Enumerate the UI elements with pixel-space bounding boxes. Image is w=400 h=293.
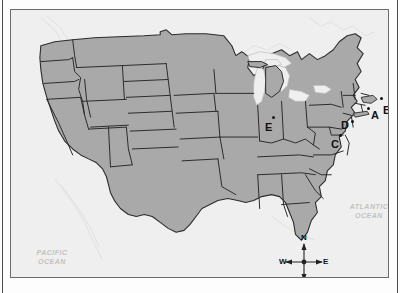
point-label-a: A: [371, 110, 379, 121]
point-label-e: E: [265, 122, 272, 133]
page-right-rule: [397, 0, 398, 293]
compass-north-label: N: [301, 234, 307, 242]
point-marker-dot-a: [367, 107, 370, 110]
point-marker-dot-d: [351, 120, 354, 123]
pacific-ocean-label: PACIFIC OCEAN: [23, 248, 81, 266]
point-label-b: B: [383, 105, 389, 116]
compass-east-label: E: [323, 258, 328, 266]
atlantic-ocean-label: ATLANTIC OCEAN: [341, 202, 389, 220]
map-figure-frame: ATLANTIC OCEAN PACIFIC OCEAN A B C D E N: [10, 9, 389, 278]
point-label-c: C: [331, 139, 339, 150]
point-label-d: D: [341, 120, 349, 131]
page-left-rule: [2, 0, 3, 293]
compass-rose: N S W E: [279, 234, 329, 278]
point-marker-dot-c: [339, 134, 342, 137]
compass-west-label: W: [279, 258, 287, 266]
point-marker-dot-b: [380, 97, 383, 100]
scanned-page: ATLANTIC OCEAN PACIFIC OCEAN A B C D E N: [0, 0, 400, 293]
point-marker-dot-e: [272, 116, 275, 119]
